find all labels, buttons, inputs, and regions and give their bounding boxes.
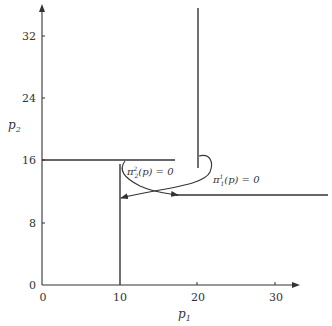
- y-tick-0: 0: [29, 279, 36, 292]
- x-tick-10: 10: [113, 291, 127, 304]
- y-axis: 0 8 16 24 32 p2: [8, 8, 45, 292]
- x-tick-30: 30: [269, 291, 283, 304]
- y-axis-label: p2: [8, 118, 21, 134]
- y-tick-24: 24: [22, 92, 36, 105]
- curve2-label: π22(p) = 0: [126, 165, 174, 179]
- x-tick-0: 0: [40, 291, 47, 304]
- y-tick-16: 16: [22, 154, 36, 167]
- x-axis-label: p1: [178, 307, 191, 323]
- y-tick-8: 8: [29, 217, 36, 230]
- diagram: 0 8 16 24 32 p2 0 10 20 30 p1 π11(p) = 0…: [0, 0, 332, 326]
- x-tick-20: 20: [191, 291, 205, 304]
- curve1-label: π11(p) = 0: [212, 173, 260, 187]
- y-tick-32: 32: [22, 30, 36, 43]
- x-axis: 0 10 20 30 p1: [40, 282, 297, 323]
- boundary-lines: [42, 8, 328, 285]
